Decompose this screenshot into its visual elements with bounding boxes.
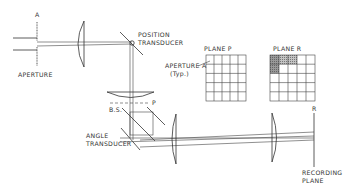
relay-lens-1 (172, 114, 176, 164)
plane-p-grid (206, 55, 246, 101)
aperture-stop (13, 22, 37, 66)
plane-p-label: PLANE P (204, 45, 232, 52)
aperture-mark-label: A (35, 11, 40, 18)
recording-plane-label-2: PLANE (302, 177, 324, 184)
plane-r-grid (270, 55, 315, 101)
optical-diagram: A APERTURE POSITION TRANSDUCER P B.S. AN… (0, 0, 351, 192)
recording-plane-label-1: RECORDING (302, 169, 342, 176)
output-beams (120, 132, 314, 147)
aperture-a-label-2: (Typ.) (170, 70, 189, 78)
aperture-label: APERTURE (18, 71, 53, 78)
focusing-lens (107, 92, 154, 98)
angle-transducer-label-1: ANGLE (86, 132, 109, 139)
plane-r-label: PLANE R (273, 45, 302, 52)
position-transducer-label-2: TRANSDUCER (137, 39, 184, 46)
angle-transducer-label-2: TRANSDUCER (85, 140, 132, 147)
p-mark-label: P (152, 99, 156, 106)
input-beam (37, 42, 132, 46)
aperture-a-label-1: APERTURE A (165, 62, 207, 69)
r-mark-label: R (312, 105, 317, 112)
beam-splitter (122, 107, 165, 141)
collimating-lens (78, 21, 84, 67)
position-transducer-label-1: POSITION (138, 31, 170, 38)
bs-label: B.S. (109, 106, 122, 113)
